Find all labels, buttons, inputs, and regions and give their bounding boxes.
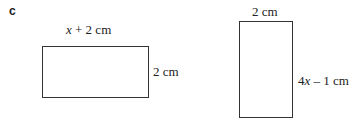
rect2-top-label: 2 cm bbox=[252, 5, 278, 19]
rect1-top-rest: + 2 cm bbox=[72, 22, 111, 37]
rectangle-1 bbox=[42, 46, 149, 98]
rect2-side-rest: – 1 cm bbox=[310, 73, 349, 88]
rect2-side-label: 4x – 1 cm bbox=[298, 74, 349, 88]
rect1-side-label: 2 cm bbox=[153, 65, 179, 79]
rectangle-2 bbox=[239, 21, 293, 118]
rect1-top-label: x + 2 cm bbox=[66, 23, 111, 37]
part-label: c bbox=[9, 4, 16, 18]
